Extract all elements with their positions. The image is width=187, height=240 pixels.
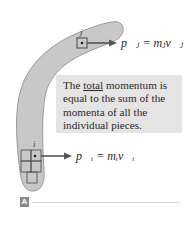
piece-j-label: j bbox=[80, 27, 83, 37]
piece-i-dot bbox=[34, 155, 37, 158]
panel-divider bbox=[32, 202, 180, 203]
piece-j-dot bbox=[81, 42, 84, 45]
callout-line-2: equal to the sum of the bbox=[63, 92, 182, 105]
momentum-equation-j: p⃗ⱼ = mⱼv⃗ⱼ bbox=[121, 36, 183, 51]
callout-line-3: momenta of all the bbox=[63, 106, 182, 119]
panel-label: A bbox=[20, 197, 29, 207]
emphasis-total: total bbox=[83, 79, 103, 91]
callout-line-1: The total momentum is bbox=[63, 79, 182, 92]
piece-i-label: i bbox=[33, 139, 36, 149]
callout-box: The total momentum is equal to the sum o… bbox=[56, 75, 182, 133]
callout-line-4: individual pieces. bbox=[63, 119, 182, 132]
momentum-equation-i: p⃗ᵢ = mᵢv⃗ᵢ bbox=[76, 149, 134, 164]
arrowhead-i-icon bbox=[64, 153, 72, 160]
